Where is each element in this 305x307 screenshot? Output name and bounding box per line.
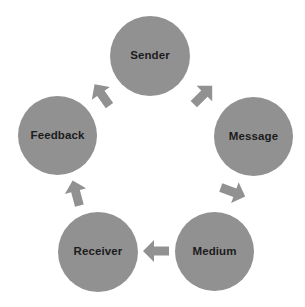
arrow-message-to-medium [214,173,252,211]
node-medium-label: Medium [192,246,236,258]
cycle-diagram: Sender Message Medium Receiver Feedback [0,0,305,307]
node-sender-label: Sender [130,50,170,62]
node-message[interactable]: Message [214,97,293,176]
arrow-right-icon [214,173,252,211]
arrow-sender-to-message [182,74,224,116]
node-feedback[interactable]: Feedback [18,96,97,175]
arrow-medium-to-receiver [141,236,171,266]
node-receiver[interactable]: Receiver [58,212,138,292]
node-medium[interactable]: Medium [175,212,254,291]
node-receiver-label: Receiver [74,246,123,258]
arrow-up-icon [58,175,95,212]
node-sender[interactable]: Sender [110,16,190,96]
arrow-left-icon [141,236,171,266]
arrow-right-icon [182,74,224,116]
arrow-receiver-to-feedback [58,175,95,212]
node-message-label: Message [229,131,278,143]
node-feedback-label: Feedback [31,130,85,142]
